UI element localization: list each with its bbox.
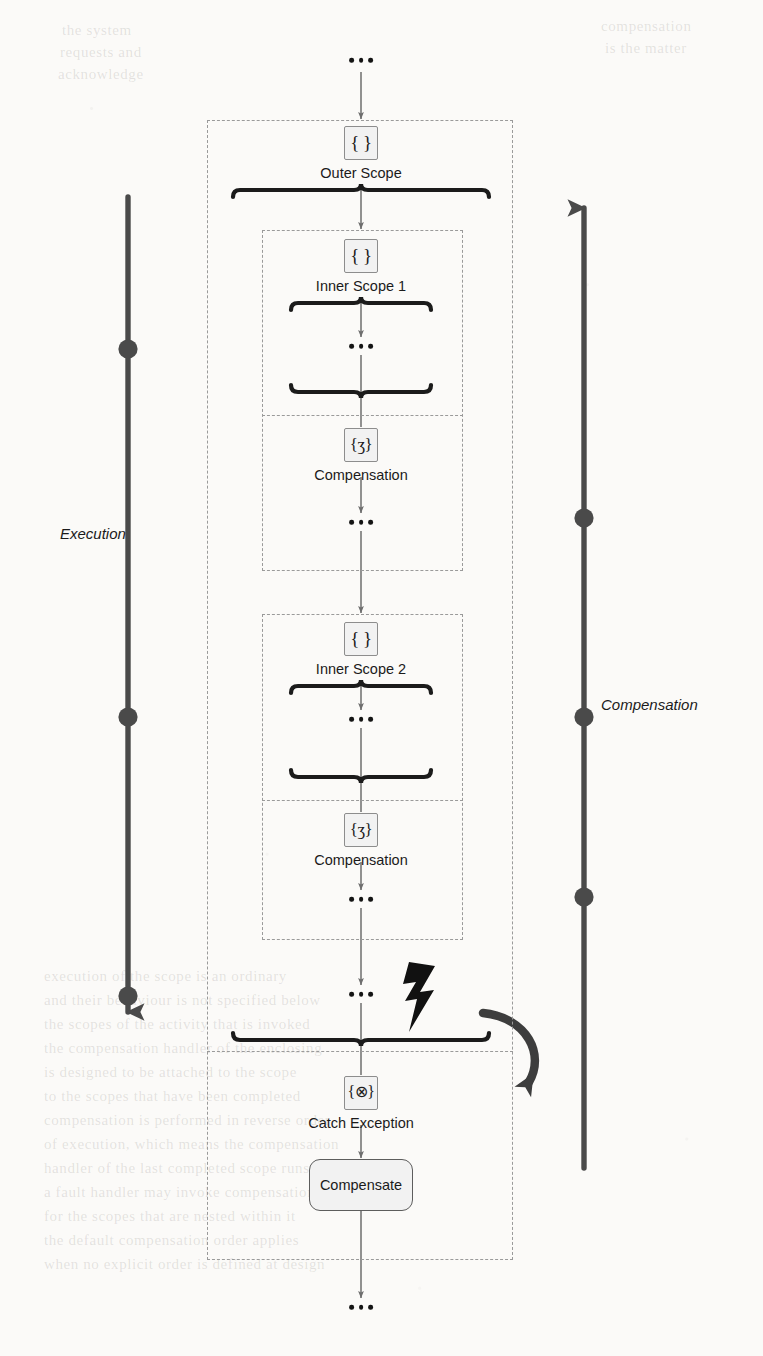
- compensation-icon[interactable]: {ʒ}: [344, 428, 378, 462]
- inner-scope-2-compensation-label: Compensation: [314, 853, 408, 868]
- ellipsis-inner-scope-1-body: [349, 344, 373, 349]
- outer-scope-label: Outer Scope: [320, 166, 401, 181]
- compensation-lane-marker: [574, 707, 593, 726]
- inner-scope-2-label: Inner Scope 2: [316, 662, 406, 677]
- catch-exception-icon-glyph: {⊗}: [348, 1084, 375, 1100]
- catch-exception-icon[interactable]: {⊗}: [344, 1076, 378, 1110]
- scope-icon[interactable]: { }: [344, 239, 378, 273]
- ellipsis-inner-scope-2-body: [349, 717, 373, 722]
- execution-lane-marker: [118, 339, 137, 358]
- compensate-task[interactable]: Compensate: [309, 1159, 413, 1211]
- scope-icon-glyph: { }: [350, 629, 372, 648]
- compensation-icon-glyph: {ʒ}: [350, 821, 372, 838]
- compensation-lane-label: Compensation: [601, 696, 698, 713]
- ellipsis-flow-end: [349, 1305, 373, 1310]
- scope-icon[interactable]: { }: [344, 126, 378, 160]
- compensate-task-label: Compensate: [320, 1177, 402, 1193]
- ellipsis-flow-start: [349, 58, 373, 63]
- scope-icon-glyph: { }: [350, 246, 372, 265]
- execution-lane-line: [118, 197, 137, 1012]
- compensation-icon[interactable]: {ʒ}: [344, 813, 378, 847]
- execution-lane-marker: [118, 707, 137, 726]
- compensation-lane-marker: [574, 508, 593, 527]
- scope-icon[interactable]: { }: [344, 622, 378, 656]
- inner-scope-1-compensation-divider: [262, 415, 463, 416]
- inner-scope-1-label: Inner Scope 1: [316, 279, 406, 294]
- compensation-icon-glyph: {ʒ}: [350, 436, 372, 453]
- inner-scope-2-compensation-divider: [262, 800, 463, 801]
- compensation-lane-line: [574, 208, 593, 1168]
- execution-lane-marker: [118, 986, 137, 1005]
- ellipsis-inner-scope-2-compensation: [349, 897, 373, 902]
- scope-icon-glyph: { }: [350, 133, 372, 152]
- catch-exception-divider: [207, 1051, 513, 1052]
- compensation-lane-marker: [574, 887, 593, 906]
- compensation-flow-diagram: { } Outer Scope { } Inner Scope 1 {ʒ} Co…: [0, 0, 763, 1356]
- inner-scope-1-compensation-label: Compensation: [314, 468, 408, 483]
- ellipsis-outer-scope-body: [349, 992, 373, 997]
- ellipsis-inner-scope-1-compensation: [349, 520, 373, 525]
- execution-lane-label: Execution: [60, 525, 126, 542]
- catch-exception-label: Catch Exception: [308, 1116, 414, 1131]
